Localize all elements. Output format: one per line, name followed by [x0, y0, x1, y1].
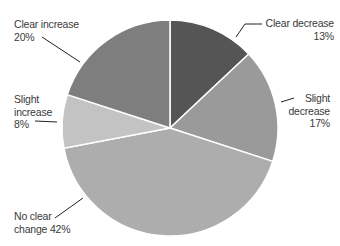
- label-slight-decrease: Slight decrease 17%: [280, 92, 330, 130]
- label-no-clear-change: No clear change 42%: [14, 210, 84, 235]
- label-clear-decrease: Clear decrease 13%: [262, 17, 334, 42]
- label-slight-increase: Slight increase 8%: [14, 93, 64, 131]
- label-clear-increase: Clear increase 20%: [14, 18, 94, 43]
- leader-clear-decrease: [236, 24, 262, 37]
- pie-slices: [62, 20, 278, 236]
